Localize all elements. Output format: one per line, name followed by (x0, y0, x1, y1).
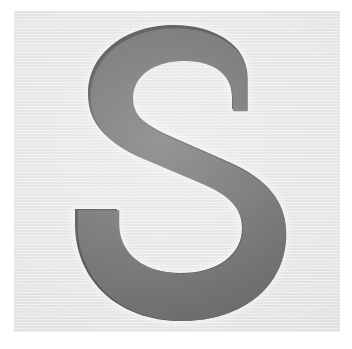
letter-s-glyph (14, 11, 340, 332)
image-canvas (0, 0, 352, 349)
glyph-container (14, 11, 340, 332)
letter-swatch-panel (14, 11, 340, 332)
